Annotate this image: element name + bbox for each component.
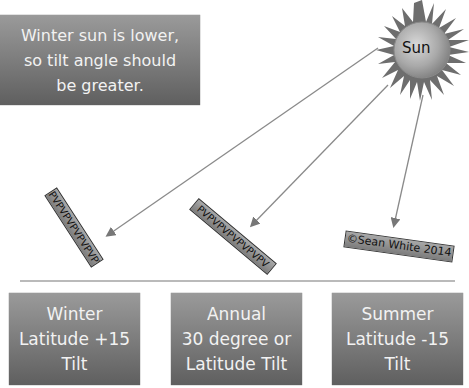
sun-label: Sun	[402, 39, 431, 57]
winter-tile-line-2: Latitude +15	[9, 327, 140, 352]
summer-tilt-tile: Summer Latitude -15 Tilt	[332, 293, 463, 385]
summer-sun-ray-arrow	[394, 95, 423, 225]
annual-sun-ray-arrow	[252, 85, 388, 225]
summer-tile-line-1: Summer	[332, 302, 463, 327]
annual-tile-line-2: 30 degree or	[171, 327, 302, 352]
annual-tile-line-1: Annual	[171, 302, 302, 327]
winter-tile-line-1: Winter	[9, 302, 140, 327]
summer-tile-line-2: Latitude -15	[332, 327, 463, 352]
annual-tilt-tile: Annual 30 degree or Latitude Tilt	[171, 293, 302, 385]
summer-tile-line-3: Tilt	[332, 352, 463, 377]
winter-tilt-tile: Winter Latitude +15 Tilt	[9, 293, 140, 385]
winter-tile-line-3: Tilt	[9, 352, 140, 377]
winter-sun-ray-arrow	[108, 48, 378, 235]
annual-tile-line-3: Latitude Tilt	[171, 352, 302, 377]
